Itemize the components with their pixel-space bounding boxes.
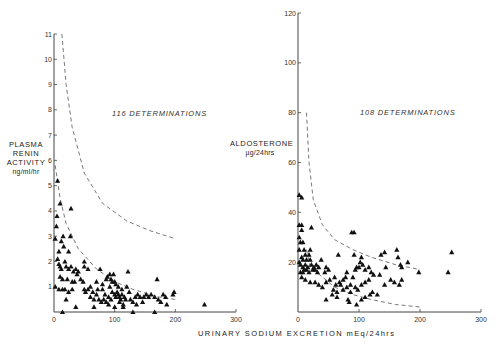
right-x-tick-label: 300 <box>475 316 487 323</box>
left-y-label-units: ng/ml/hr <box>2 167 50 176</box>
left-data-point-triangle-icon <box>68 264 73 269</box>
right-data-point-triangle-icon <box>344 285 349 290</box>
left-data-point-triangle-icon <box>127 289 132 294</box>
left-data-point-triangle-icon <box>66 249 71 254</box>
left-data-point-triangle-icon <box>90 289 95 294</box>
right-data-point-triangle-icon <box>334 294 339 299</box>
right-data-point-triangle-icon <box>330 292 335 297</box>
left-data-point-triangle-icon <box>55 256 60 261</box>
right-data-point-triangle-icon <box>348 282 353 287</box>
left-data-point-triangle-icon <box>112 304 117 309</box>
left-data-point-triangle-icon <box>134 302 139 307</box>
right-data-point-triangle-icon <box>319 257 324 262</box>
right-data-point-triangle-icon <box>370 290 375 295</box>
right-data-point-triangle-icon <box>297 247 302 252</box>
right-y-tick-label: 60 <box>288 159 296 166</box>
left-y-tick-label: 7 <box>48 132 52 139</box>
right-x-tick-label: 100 <box>353 316 365 323</box>
left-data-point-triangle-icon <box>82 264 87 269</box>
left-data-point-triangle-icon <box>54 224 59 229</box>
left-data-point-triangle-icon <box>88 284 93 289</box>
left-reference-curve-upper <box>62 34 175 239</box>
right-data-point-triangle-icon <box>343 275 348 280</box>
right-data-point-triangle-icon <box>341 287 346 292</box>
left-scatter-panel: 12345678910110100200300 <box>44 31 242 324</box>
right-data-point-triangle-icon <box>416 270 421 275</box>
right-data-point-triangle-icon <box>392 280 397 285</box>
right-determinations-annotation: 108 DETERMINATIONS <box>360 108 456 117</box>
figure: 12345678910110100200300 2040608010012001… <box>0 0 498 344</box>
left-data-point-triangle-icon <box>202 302 207 307</box>
right-data-point-triangle-icon <box>366 265 371 270</box>
left-data-point-triangle-icon <box>100 282 105 287</box>
right-y-tick-label: 100 <box>284 59 296 66</box>
left-y-tick-label: 5 <box>48 182 52 189</box>
left-data-point-triangle-icon <box>98 266 103 271</box>
right-data-point-triangle-icon <box>354 302 359 307</box>
right-reference-curve-upper <box>307 113 421 270</box>
right-data-point-triangle-icon <box>309 225 314 230</box>
right-data-point-triangle-icon <box>397 282 402 287</box>
right-data-point-triangle-icon <box>348 290 353 295</box>
left-data-point-triangle-icon <box>61 234 66 239</box>
left-y-tick-label: 1 <box>48 283 52 290</box>
right-data-point-triangle-icon <box>359 282 364 287</box>
right-x-tick-label: 200 <box>414 316 426 323</box>
right-data-point-triangle-icon <box>333 282 338 287</box>
right-y-label-units: µg/24hrs <box>230 148 290 157</box>
left-data-point-triangle-icon <box>64 297 69 302</box>
right-data-point-triangle-icon <box>313 280 318 285</box>
left-data-point-triangle-icon <box>68 206 73 211</box>
right-data-point-triangle-icon <box>308 280 313 285</box>
left-y-label-line-2: RENIN <box>2 149 50 158</box>
left-data-point-triangle-icon <box>59 239 64 244</box>
right-data-point-triangle-icon <box>332 275 337 280</box>
left-y-tick-label: 4 <box>48 207 52 214</box>
left-y-label-line-3: ACTIVITY <box>2 158 50 167</box>
left-y-tick-label: 10 <box>44 56 52 63</box>
right-data-point-triangle-icon <box>336 252 341 257</box>
right-data-point-triangle-icon <box>449 250 454 255</box>
right-data-point-triangle-icon <box>377 272 382 277</box>
right-data-point-triangle-icon <box>405 260 410 265</box>
right-data-point-triangle-icon <box>382 250 387 255</box>
left-y-label-line-1: PLASMA <box>2 140 50 149</box>
right-data-point-triangle-icon <box>388 277 393 282</box>
left-data-point-triangle-icon <box>140 299 145 304</box>
right-data-point-triangle-icon <box>299 227 304 232</box>
right-data-point-triangle-icon <box>383 265 388 270</box>
left-data-point-triangle-icon <box>82 259 87 264</box>
left-data-point-triangle-icon <box>102 292 107 297</box>
right-data-point-triangle-icon <box>327 277 332 282</box>
scatter-plots-svg: 12345678910110100200300 2040608010012001… <box>0 0 498 344</box>
right-data-point-triangle-icon <box>359 255 364 260</box>
right-data-point-triangle-icon <box>316 282 321 287</box>
right-data-point-triangle-icon <box>303 277 308 282</box>
right-data-point-triangle-icon <box>352 252 357 257</box>
right-scatter-panel: 204060801001200100200300 <box>284 10 487 324</box>
left-data-point-triangle-icon <box>53 284 58 289</box>
left-y-tick-label: 9 <box>48 81 52 88</box>
right-y-tick-label: 120 <box>284 10 296 17</box>
left-determinations-annotation: 116 DETERMINATIONS <box>112 109 207 118</box>
left-data-point-triangle-icon <box>95 287 100 292</box>
right-data-point-triangle-icon <box>366 277 371 282</box>
left-data-point-triangle-icon <box>65 277 70 282</box>
right-data-point-triangle-icon <box>363 267 368 272</box>
right-data-point-triangle-icon <box>297 235 302 240</box>
left-data-point-triangle-icon <box>58 201 63 206</box>
left-data-point-triangle-icon <box>55 178 60 183</box>
right-data-point-triangle-icon <box>394 247 399 252</box>
left-data-point-triangle-icon <box>78 277 83 282</box>
left-data-point-triangle-icon <box>107 284 112 289</box>
left-data-point-triangle-icon <box>121 304 126 309</box>
right-data-point-triangle-icon <box>382 282 387 287</box>
right-data-point-triangle-icon <box>302 247 307 252</box>
right-y-tick-label: 40 <box>288 209 296 216</box>
right-y-axis-label: ALDOSTERONE µg/24hrs <box>230 139 290 157</box>
left-data-point-triangle-icon <box>101 297 106 302</box>
left-y-axis-label: PLASMA RENIN ACTIVITY ng/ml/hr <box>2 140 50 176</box>
left-data-point-triangle-icon <box>124 284 129 289</box>
right-data-point-triangle-icon <box>324 297 329 302</box>
right-data-point-triangle-icon <box>399 277 404 282</box>
